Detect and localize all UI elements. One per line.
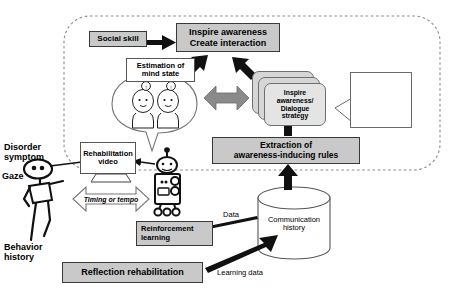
diagram-canvas: ? ! xyxy=(0,0,451,301)
reinforcement-learning-box[interactable]: Reinforcement learning xyxy=(136,221,213,246)
extraction-rules-box[interactable]: Extraction of awareness-inducing rules xyxy=(212,137,360,164)
arrow-social-to-inspire xyxy=(146,35,176,50)
reinforcement-line2: learning xyxy=(141,234,170,242)
inspire-awareness-line2: Create interaction xyxy=(190,38,267,48)
inspire-awareness-line1: Inspire awareness xyxy=(189,27,267,37)
behavior-line2: history xyxy=(4,252,34,262)
dialogue-strategy-line4: strategy xyxy=(282,112,308,120)
data-edge-label: Data xyxy=(216,209,246,221)
social-skill-box[interactable]: Social skill xyxy=(89,31,147,47)
bidirectional-gray-arrow xyxy=(204,86,249,110)
robot-to-video-line xyxy=(133,161,155,164)
disorder-line1: Disorder xyxy=(4,142,41,152)
dialogue-strategy-line3: Dialogue xyxy=(281,105,310,113)
thought-bubble xyxy=(112,74,197,151)
dialogue-strategy-line1: Inspire xyxy=(284,89,306,97)
behavior-history-label: Behavior history xyxy=(4,240,64,264)
state-graph-box[interactable] xyxy=(350,72,412,128)
dialogue-strategy-card[interactable]: Inspire awareness/ Dialogue strategy xyxy=(264,83,326,126)
rehabilitation-video-box[interactable]: Rehabilitation video xyxy=(80,142,136,174)
inspire-awareness-box[interactable]: Inspire awareness Create interaction xyxy=(176,23,280,52)
learning-data-edge-label: Learning data xyxy=(207,267,273,279)
robot-icon xyxy=(154,147,180,215)
dialogue-strategy-line2: awareness/ xyxy=(277,97,314,105)
estimation-line2: mind state xyxy=(142,70,180,78)
arrow-history-to-extraction xyxy=(278,164,298,190)
comm-history-line2: history xyxy=(283,224,305,232)
behavior-line1: Behavior xyxy=(4,242,43,252)
gaze-label: Gaze xyxy=(2,170,34,182)
reflection-rehabilitation-box[interactable]: Reflection rehabilitation xyxy=(62,262,203,283)
timing-or-tempo-label: Timing or tempo xyxy=(82,193,140,207)
rehab-video-line2: video xyxy=(98,158,118,166)
disorder-symptom-label: Disorder symptom xyxy=(4,140,66,164)
estimation-mind-state-box[interactable]: Estimation of mind state xyxy=(126,58,195,82)
communication-history-label: Communication history xyxy=(258,212,330,236)
social-skill-label: Social skill xyxy=(97,35,138,44)
disorder-line2: symptom xyxy=(4,152,44,162)
extraction-line2: awareness-inducing rules xyxy=(234,151,338,161)
monitor-screen-icon xyxy=(91,174,131,182)
reflection-label: Reflection rehabilitation xyxy=(81,267,184,277)
